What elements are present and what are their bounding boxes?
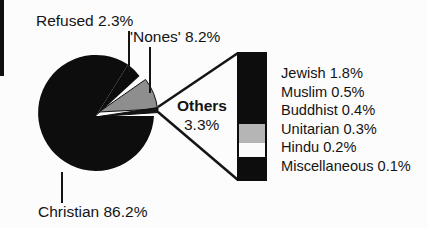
legend-item-buddhist: Buddhist 0.4% <box>281 101 411 120</box>
legend-item-hindu: Hindu 0.2% <box>281 138 411 157</box>
callout-value-others: 3.3% <box>184 117 219 133</box>
others-breakdown-bar <box>238 53 266 180</box>
legend-item-unitarian: Unitarian 0.3% <box>281 120 411 139</box>
legend-item-muslim: Muslim 0.5% <box>281 83 411 102</box>
bar-segment-jewish <box>238 53 266 124</box>
bar-segment-muslim <box>238 124 266 143</box>
bar-segment-hindu <box>238 169 266 176</box>
pie-label-christian: Christian 86.2% <box>38 204 147 220</box>
pie-label-refused: Refused 2.3% <box>36 13 133 29</box>
others-legend: Jewish 1.8% Muslim 0.5% Buddhist 0.4% Un… <box>281 64 411 176</box>
callout-label-others: Others <box>177 98 227 114</box>
pie-label-nones: 'Nones' 8.2% <box>130 29 220 45</box>
bar-segment-buddhist <box>238 143 266 157</box>
legend-item-miscellaneous: Miscellaneous 0.1% <box>281 157 411 176</box>
bar-segment-unitarian <box>238 157 266 169</box>
pie-chart-figure: Refused 2.3% 'Nones' 8.2% Christian 86.2… <box>0 0 427 228</box>
legend-item-jewish: Jewish 1.8% <box>281 64 411 83</box>
